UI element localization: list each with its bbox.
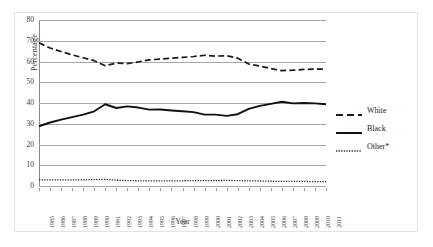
x-tick-mark-1985 [39,188,40,191]
chart-figure: 01020304050607080 Percentage 19851986198… [0,0,433,247]
y-tick-label-20: 20 [4,141,34,149]
x-tick-mark-2009 [304,188,305,191]
x-tick-mark-1991 [105,188,106,191]
series-lines [39,20,326,186]
y-axis-title: Percentage [30,0,39,113]
x-tick-mark-1999 [194,188,195,191]
y-tick-label-0: 0 [4,182,34,190]
y-tick-label-10: 10 [4,161,34,169]
x-tick-mark-1994 [138,188,139,191]
x-tick-mark-2010 [315,188,316,191]
x-tick-mark-2001 [216,188,217,191]
x-tick-mark-1996 [160,188,161,191]
x-tick-mark-2002 [227,188,228,191]
series-line-other [39,179,326,181]
x-tick-mark-1989 [83,188,84,191]
x-tick-mark-1993 [127,188,128,191]
x-tick-mark-2000 [205,188,206,191]
x-tick-mark-1998 [183,188,184,191]
x-tick-mark-2007 [282,188,283,191]
x-tick-mark-2005 [260,188,261,191]
x-tick-mark-1987 [61,188,62,191]
legend-swatch-white-dashed-icon [336,106,362,116]
legend-swatch-black-solid-icon [336,124,362,134]
x-tick-mark-1992 [116,188,117,191]
legend-item-other: Other* [336,139,416,154]
x-tick-mark-1988 [72,188,73,191]
legend-label-other: Other* [367,142,389,151]
legend-item-white: White [336,103,416,118]
series-line-white [39,43,326,71]
legend-item-black: Black [336,121,416,136]
x-tick-mark-2011 [326,188,327,191]
x-tick-mark-2004 [249,188,250,191]
x-tick-mark-1990 [94,188,95,191]
series-line-black [39,102,326,126]
chart-legend: White Black Other* [336,103,416,157]
x-axis-tick-labels: 1985198619871988198919901991199219931994… [39,188,326,216]
y-tick-label-30: 30 [4,120,34,128]
legend-swatch-other-dotted-icon [336,142,362,152]
x-tick-mark-2008 [293,188,294,191]
x-tick-mark-1986 [50,188,51,191]
plot-area [39,20,326,186]
x-tick-mark-1997 [171,188,172,191]
legend-label-white: White [367,106,387,115]
x-tick-mark-2006 [271,188,272,191]
legend-label-black: Black [367,124,386,133]
x-tick-mark-1995 [149,188,150,191]
x-axis-title: Year [39,217,326,226]
gridline-0 [39,186,326,187]
x-tick-label-2011: 2011 [336,216,342,242]
x-tick-mark-2003 [238,188,239,191]
